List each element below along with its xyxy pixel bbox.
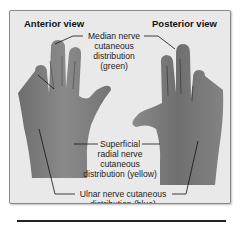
- radial-nerve-label: Superficial radial nerve cutaneous distr…: [82, 139, 158, 179]
- anterior-view-label: Anterior view: [24, 18, 84, 29]
- bottom-rule: [17, 220, 226, 222]
- median-nerve-label: Median nerve cutaneous distribution (gre…: [83, 31, 145, 71]
- posterior-view-label: Posterior view: [152, 18, 217, 29]
- ulnar-nerve-label: Ulnar nerve cutaneous distribution (blue…: [74, 189, 172, 204]
- figure-frame: Anterior view Posterior view Median nerv…: [9, 10, 231, 204]
